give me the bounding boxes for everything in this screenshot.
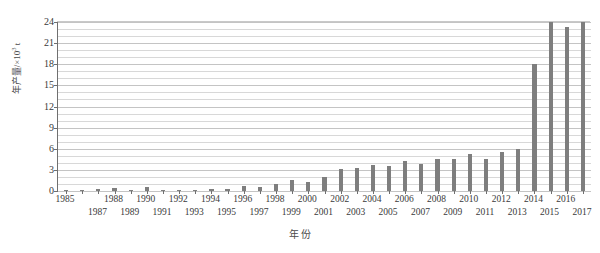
y-axis-tick-label: 12 bbox=[32, 102, 54, 112]
x-axis-title-text: 年 份 bbox=[289, 229, 312, 240]
y-axis-title-exponent: 3 bbox=[10, 47, 17, 50]
bar bbox=[532, 64, 536, 191]
y-axis-tick-mark bbox=[54, 22, 58, 23]
x-axis-tick-label: 2016 bbox=[551, 194, 581, 204]
y-axis-tick-labels: 03691215182124 bbox=[28, 0, 54, 253]
bar bbox=[484, 159, 488, 191]
x-axis-tick-label: 2008 bbox=[422, 194, 452, 204]
bar-chart: 年产量/×103 t 03691215182124 年 份 1985198719… bbox=[0, 0, 600, 253]
bar bbox=[468, 154, 472, 191]
bar bbox=[274, 184, 278, 191]
y-axis-title-prefix: 年产量/×10 bbox=[12, 51, 22, 95]
x-axis-tick-label: 2004 bbox=[357, 194, 387, 204]
x-axis-tick-label: 1985 bbox=[50, 194, 80, 204]
y-axis-tick-mark bbox=[54, 170, 58, 171]
bar bbox=[452, 159, 456, 191]
gridline-major bbox=[58, 64, 591, 65]
y-axis-tick-label: 9 bbox=[32, 123, 54, 133]
x-axis-tick-label: 2005 bbox=[373, 207, 403, 217]
y-axis-tick-mark bbox=[54, 107, 58, 108]
bar bbox=[322, 177, 326, 191]
y-axis-tick-mark bbox=[54, 43, 58, 44]
gridline-minor bbox=[58, 121, 591, 122]
x-axis-tick-label: 2012 bbox=[486, 194, 516, 204]
y-axis-title: 年产量/×103 t bbox=[10, 9, 23, 129]
gridline-minor bbox=[58, 114, 591, 115]
gridline-minor bbox=[58, 92, 591, 93]
y-axis-tick-label: 6 bbox=[32, 144, 54, 154]
x-axis-tick-label: 1996 bbox=[228, 194, 258, 204]
y-axis-tick-label: 15 bbox=[32, 80, 54, 90]
y-axis-tick-label: 24 bbox=[32, 17, 54, 27]
gridline-major bbox=[58, 128, 591, 129]
x-axis-tick-label: 2006 bbox=[389, 194, 419, 204]
gridline-minor bbox=[58, 29, 591, 30]
bar bbox=[306, 182, 310, 191]
gridline-major bbox=[58, 22, 591, 23]
gridline-minor bbox=[58, 156, 591, 157]
x-axis-title: 年 份 bbox=[0, 226, 600, 241]
gridline-minor bbox=[58, 99, 591, 100]
x-axis-tick-label: 1994 bbox=[195, 194, 225, 204]
x-axis-tick-label: 2015 bbox=[535, 207, 565, 217]
gridline-minor bbox=[58, 57, 591, 58]
y-axis-tick-mark bbox=[54, 128, 58, 129]
bar bbox=[290, 180, 294, 191]
x-axis-tick-label: 1992 bbox=[163, 194, 193, 204]
x-axis-tick-label: 2000 bbox=[292, 194, 322, 204]
bar bbox=[565, 27, 569, 191]
x-axis-tick-label: 1988 bbox=[99, 194, 129, 204]
gridline-minor bbox=[58, 71, 591, 72]
x-axis-tick-label: 1990 bbox=[131, 194, 161, 204]
y-axis-tick-mark bbox=[54, 85, 58, 86]
gridline-major bbox=[58, 107, 591, 108]
bar bbox=[419, 164, 423, 191]
x-axis-tick-label: 2007 bbox=[405, 207, 435, 217]
x-axis-tick-label: 1998 bbox=[260, 194, 290, 204]
y-axis-tick-mark bbox=[54, 191, 58, 192]
gridline-minor bbox=[58, 135, 591, 136]
bar bbox=[435, 159, 439, 191]
x-axis-tick-label: 1989 bbox=[115, 207, 145, 217]
y-axis-tick-mark bbox=[54, 64, 58, 65]
bar bbox=[549, 22, 553, 191]
x-axis-tick-label: 1999 bbox=[276, 207, 306, 217]
gridline-minor bbox=[58, 50, 591, 51]
x-axis-tick-label: 2017 bbox=[567, 207, 597, 217]
bar bbox=[500, 152, 504, 191]
y-axis-tick-label: 3 bbox=[32, 165, 54, 175]
gridline-minor bbox=[58, 36, 591, 37]
gridline-major bbox=[58, 149, 591, 150]
gridline-major bbox=[58, 43, 591, 44]
x-axis-tick-label: 2009 bbox=[438, 207, 468, 217]
x-axis-tick-label: 2010 bbox=[454, 194, 484, 204]
y-axis-tick-label: 21 bbox=[32, 38, 54, 48]
x-axis-tick-label: 1993 bbox=[179, 207, 209, 217]
bar bbox=[516, 149, 520, 191]
x-axis-tick-label: 2014 bbox=[518, 194, 548, 204]
bar bbox=[403, 161, 407, 191]
x-axis-tick-label: 1987 bbox=[82, 207, 112, 217]
x-axis-tick-label: 1991 bbox=[147, 207, 177, 217]
x-axis-tick-label: 2001 bbox=[309, 207, 339, 217]
y-axis-tick-label: 18 bbox=[32, 59, 54, 69]
x-axis-tick-label: 2002 bbox=[325, 194, 355, 204]
bar bbox=[339, 169, 343, 191]
x-axis-tick-label: 1995 bbox=[212, 207, 242, 217]
gridline-minor bbox=[58, 163, 591, 164]
bar bbox=[355, 168, 359, 191]
x-axis-tick-label: 2013 bbox=[502, 207, 532, 217]
x-axis-tick-mark bbox=[82, 191, 83, 194]
x-axis-tick-label: 2011 bbox=[470, 207, 500, 217]
bar bbox=[581, 22, 585, 191]
gridline-major bbox=[58, 85, 591, 86]
plot-area bbox=[57, 22, 591, 192]
bar bbox=[371, 165, 375, 191]
y-axis-tick-mark bbox=[54, 149, 58, 150]
x-axis-tick-label: 2003 bbox=[341, 207, 371, 217]
bar bbox=[387, 166, 391, 191]
x-axis-tick-label: 1997 bbox=[244, 207, 274, 217]
gridline-major bbox=[58, 170, 591, 171]
x-axis-tick-mark bbox=[583, 191, 584, 194]
y-axis-title-suffix: t bbox=[12, 43, 22, 48]
